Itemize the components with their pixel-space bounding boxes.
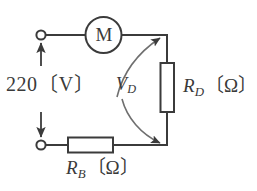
voltage-d-label: VD [116, 75, 136, 96]
resistor-b-label: RB〔Ω〕 [66, 158, 139, 181]
resistor-d-subscript: D [195, 84, 205, 99]
terminal-top [36, 30, 45, 39]
resistor-d-body [161, 63, 175, 112]
supply-voltage-unit: 〔V〕 [38, 73, 95, 95]
resistor-b-unit: 〔Ω〕 [86, 157, 139, 178]
resistor-d-unit: 〔Ω〕 [204, 75, 257, 96]
circuit-diagram: M 220〔V〕 RD〔Ω〕 RB〔Ω〕 VD [0, 0, 257, 191]
terminal-bottom [36, 140, 45, 149]
motor-label: M [95, 24, 113, 46]
voltage-d-symbol: V [116, 74, 127, 94]
resistor-d-symbol: R [183, 75, 195, 96]
voltage-d-subscript: D [127, 82, 136, 96]
supply-voltage-label: 220〔V〕 [6, 74, 94, 94]
resistor-b-subscript: B [78, 166, 86, 181]
resistor-d-label: RD〔Ω〕 [183, 76, 257, 99]
vd-arrow-lower [122, 99, 160, 143]
resistor-b-body [68, 138, 113, 153]
supply-voltage-value: 220 [6, 73, 38, 95]
resistor-b-symbol: R [66, 157, 78, 178]
